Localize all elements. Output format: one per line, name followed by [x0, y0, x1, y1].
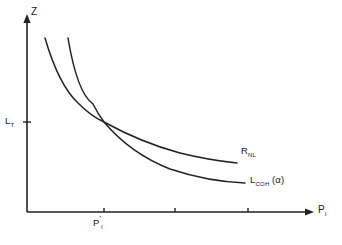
figure-container: Z Pl LT P′l RNL LCOH(α): [0, 0, 342, 245]
curve-label-rnl-subscript: NL: [248, 152, 256, 158]
curve-label-lcoh-subscript: COH: [255, 181, 269, 187]
y-axis-title-text: Z: [31, 6, 37, 17]
x-axis-arrowhead: [305, 208, 314, 215]
x-tick-label-base: P: [93, 217, 100, 228]
x-tick-label-pl: P′l: [93, 216, 103, 228]
x-tick-label-subscript: l: [101, 224, 103, 230]
plot-canvas: [0, 0, 342, 245]
x-axis-title: Pl: [318, 205, 327, 215]
y-tick-label-lt: LT: [5, 116, 14, 126]
y-axis-title: Z: [31, 7, 37, 17]
x-axis-title-base: P: [318, 204, 325, 215]
curve-rnl: [45, 38, 237, 163]
curve-label-lcoh-argument: (α): [272, 174, 284, 185]
x-axis-title-subscript: l: [325, 210, 327, 217]
curve-label-rnl: RNL: [241, 146, 256, 156]
curve-label-rnl-base: R: [241, 145, 248, 156]
x-tick-label-prime: ′: [100, 214, 102, 223]
y-tick-label-subscript: T: [10, 122, 14, 128]
y-axis-arrowhead: [23, 14, 30, 23]
curve-label-lcoh: LCOH(α): [250, 175, 284, 185]
